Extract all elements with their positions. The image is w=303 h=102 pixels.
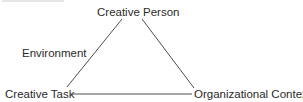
node-creative-person: Creative Person bbox=[97, 6, 179, 18]
triangle-diagram: Creative Person Environment Creative Tas… bbox=[0, 0, 303, 102]
label-environment: Environment bbox=[22, 47, 87, 59]
edge-person-context bbox=[142, 19, 194, 88]
node-organizational-context: Organizational Context bbox=[194, 88, 303, 100]
node-creative-task: Creative Task bbox=[5, 88, 74, 100]
